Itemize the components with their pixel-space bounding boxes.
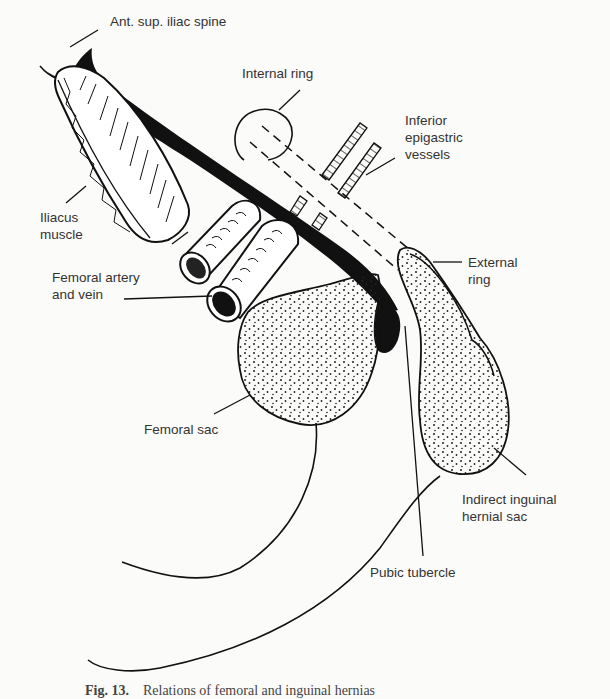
caption-prefix: Fig. 13. <box>85 683 129 698</box>
label-pubic-tubercle: Pubic tubercle <box>370 564 456 581</box>
label-femoral-sac: Femoral sac <box>144 421 218 438</box>
figure-caption: Fig. 13.Relations of femoral and inguina… <box>85 683 375 699</box>
label-ant-sup-iliac-spine: Ant. sup. iliac spine <box>110 13 226 30</box>
label-femoral-vessels-2: and vein <box>52 286 103 303</box>
label-inferior-epigastric-3: vessels <box>405 146 450 163</box>
label-inferior-epigastric-2: epigastric <box>405 129 463 146</box>
label-internal-ring: Internal ring <box>242 65 313 82</box>
inferior-epigastric-vessels <box>290 123 395 230</box>
label-femoral-vessels-1: Femoral artery <box>52 269 140 286</box>
label-indirect-sac-1: Indirect inguinal <box>462 491 557 508</box>
label-indirect-sac-2: hernial sac <box>462 508 527 525</box>
label-iliacus-1: Iliacus <box>40 209 78 226</box>
label-external-ring-1: External <box>468 254 518 271</box>
caption-text: Relations of femoral and inguinal hernia… <box>143 683 375 698</box>
femoral-canal-line <box>122 423 316 578</box>
femoral-sac <box>238 274 381 425</box>
label-iliacus-2: muscle <box>40 226 83 243</box>
label-external-ring-2: ring <box>468 271 491 288</box>
label-inferior-epigastric-1: Inferior <box>405 112 447 129</box>
